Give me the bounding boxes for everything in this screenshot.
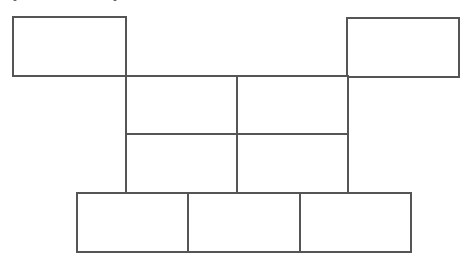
box-mid-r1-c2 <box>237 76 348 134</box>
block-diagram <box>0 0 465 253</box>
box-bottom-c1 <box>77 193 188 252</box>
box-bottom-c2 <box>188 193 300 252</box>
box-top-left <box>13 17 126 76</box>
box-mid-r2-c2 <box>237 134 348 193</box>
box-bottom-c3 <box>300 193 411 252</box>
box-mid-r1-c1 <box>126 76 237 134</box>
box-mid-r2-c1 <box>126 134 237 193</box>
box-top-right <box>347 18 459 77</box>
